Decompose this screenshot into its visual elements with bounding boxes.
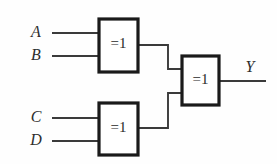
input-label-d: D (29, 131, 42, 148)
input-label-b: B (31, 46, 41, 63)
gate-xor-ab-symbol: =1 (111, 35, 127, 51)
gate-xor-cd[interactable]: =1 (99, 103, 138, 155)
input-label-a: A (30, 23, 41, 40)
gate-xor-out-symbol: =1 (193, 71, 209, 87)
gate-xor-cd-symbol: =1 (111, 119, 127, 135)
wire-gate-cd-to-out (138, 93, 182, 128)
gate-xor-out[interactable]: =1 (182, 56, 219, 105)
wire-gate-ab-to-out (138, 45, 182, 69)
circuit-canvas: =1 =1 =1 A B C D Y (0, 0, 277, 164)
logic-circuit-diagram: =1 =1 =1 A B C D Y (0, 0, 277, 164)
input-label-c: C (31, 108, 42, 125)
output-label-y: Y (246, 58, 257, 75)
input-wires (52, 33, 99, 141)
gate-xor-ab[interactable]: =1 (99, 19, 138, 72)
interconnect-wires (138, 45, 182, 128)
